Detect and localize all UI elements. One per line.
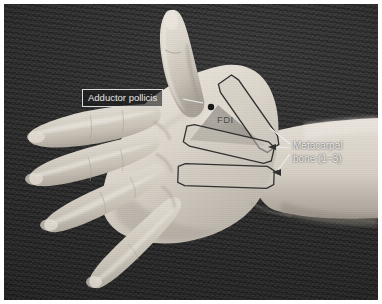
- metacarpal-3-outline: [178, 163, 275, 188]
- anatomy-figure: Adductor pollicis FDI Metacarpal bone (1…: [0, 0, 382, 304]
- adductor-pollicis-label-box: Adductor pollicis: [82, 89, 163, 107]
- photo-plate: Adductor pollicis FDI Metacarpal bone (1…: [4, 4, 378, 300]
- metacarpal-label-line2: bone (1−3): [293, 153, 342, 166]
- adductor-pollicis-marker-dot: [208, 104, 214, 110]
- fdi-label: FDI: [217, 114, 234, 125]
- adductor-pollicis-label-text: Adductor pollicis: [88, 92, 157, 103]
- metacarpal-label: Metacarpal bone (1−3): [293, 140, 342, 165]
- metacarpal-label-line1: Metacarpal: [293, 140, 342, 153]
- fdi-label-text: FDI: [217, 114, 234, 125]
